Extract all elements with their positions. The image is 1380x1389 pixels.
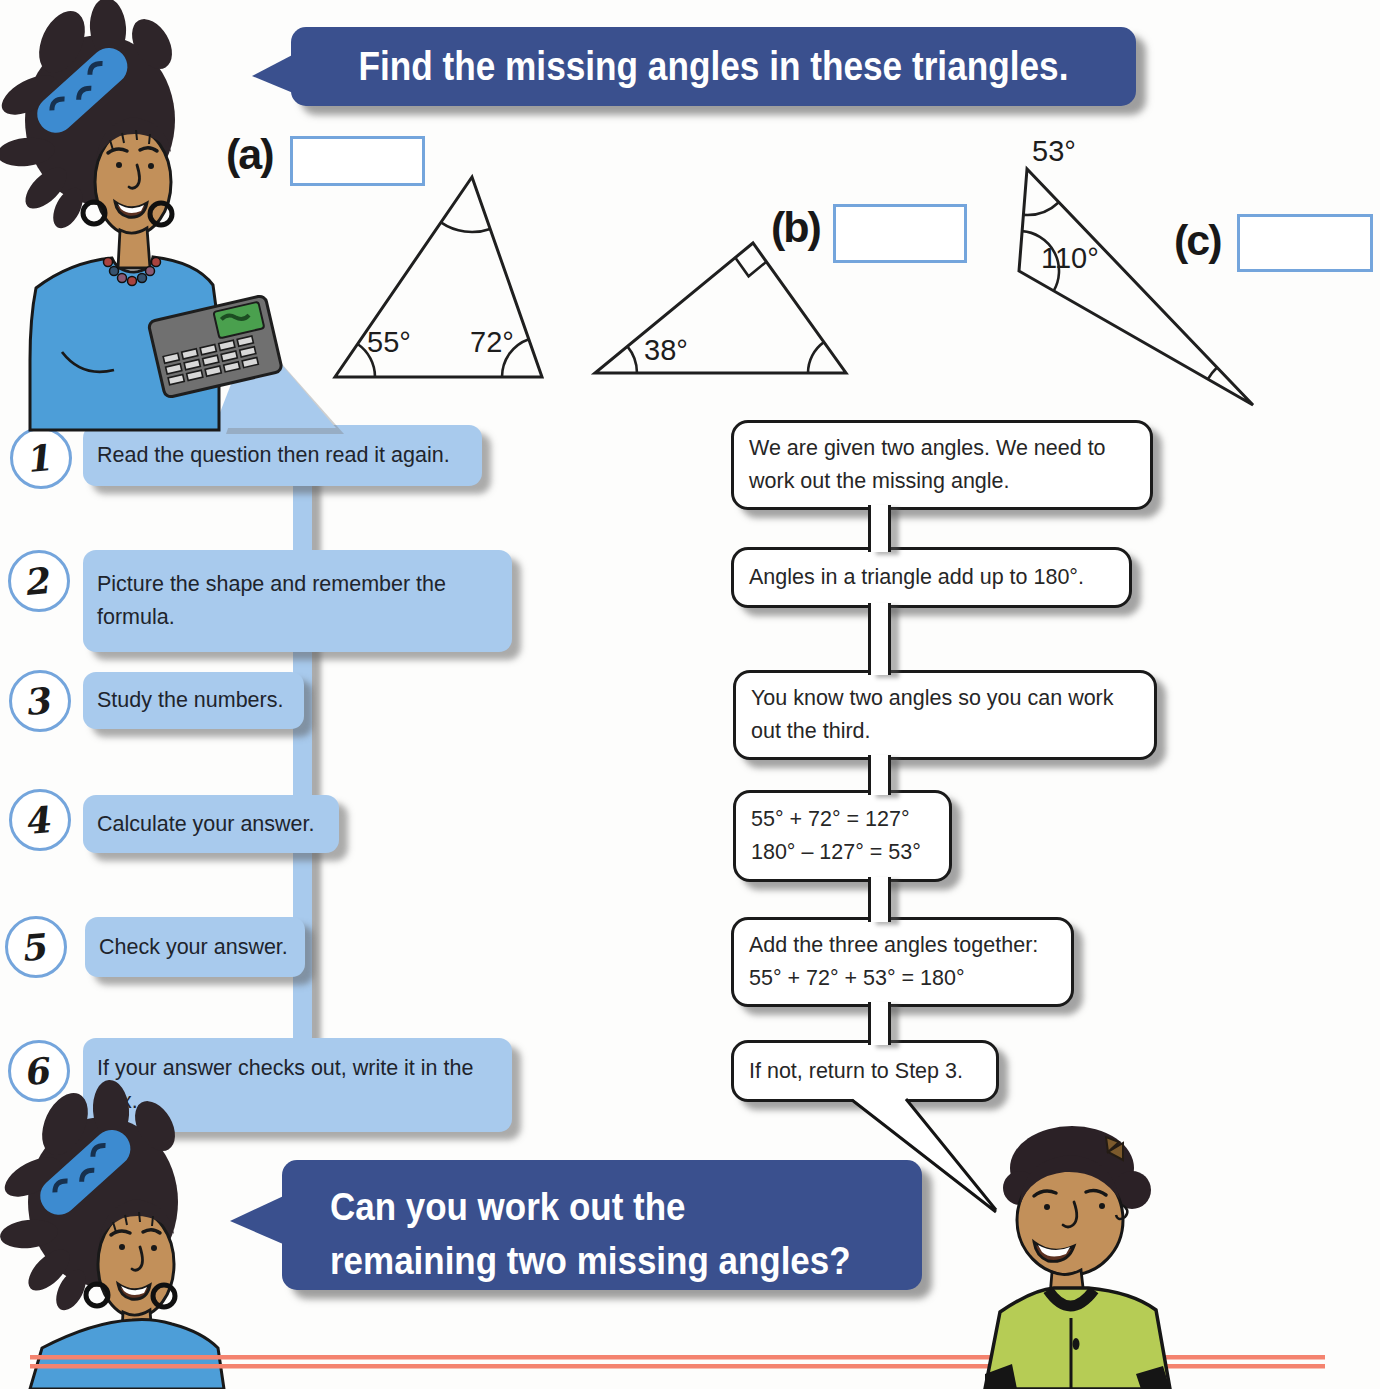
step-number-6: 6 — [8, 1040, 70, 1102]
step-number-5: 5 — [5, 916, 67, 978]
challenge-banner: Can you work out the remaining two missi… — [282, 1160, 922, 1290]
hint-bubble-3: You know two angles so you can work out … — [733, 670, 1157, 760]
student-eye-left — [1044, 1204, 1050, 1210]
student-face — [1017, 1165, 1123, 1275]
teacher-bottom-top — [30, 1320, 224, 1389]
student-eyebrows — [1034, 1191, 1106, 1196]
student-cuff-left — [985, 1364, 1017, 1389]
student-neck — [1050, 1270, 1084, 1296]
triangle-c — [1019, 169, 1253, 405]
teacher-top-folds — [62, 345, 174, 377]
challenge-banner-tail — [230, 1193, 290, 1247]
angle-label-c-110: 110° — [1041, 242, 1099, 275]
hint-connector-5 — [868, 1002, 891, 1045]
problem-label-c: (c) — [1174, 216, 1221, 265]
hint-bubble-4: 55° + 72° = 127° 180° – 127° = 53° — [733, 790, 952, 882]
step-number-4: 4 — [9, 789, 71, 851]
hint-bubble-5: Add the three angles together: 55° + 72°… — [731, 917, 1074, 1007]
hint-connector-3 — [868, 755, 891, 795]
student-shirt — [985, 1288, 1170, 1389]
worksheet-page: Find the missing angles in these triangl… — [0, 0, 1380, 1389]
footer-rule — [30, 1355, 1325, 1369]
hint-connector-4 — [868, 877, 891, 922]
right-angle-marker — [735, 258, 766, 277]
hint-bubble-6: If not, return to Step 3. — [731, 1040, 999, 1102]
teacher-top — [30, 257, 219, 430]
step-box-4: Calculate your answer. — [83, 795, 339, 853]
step-box-1: Read the question then read it again. — [83, 425, 482, 486]
student-teeth — [1038, 1245, 1070, 1257]
angle-label-a-55: 55° — [367, 326, 411, 359]
angle-label-a-72: 72° — [470, 326, 514, 359]
challenge-text-line2: remaining two missing angles? — [330, 1234, 875, 1288]
triangle-b — [595, 243, 846, 373]
step-box-6: If your answer checks out, write it in t… — [83, 1038, 512, 1132]
student-collar — [1048, 1290, 1094, 1306]
answer-box-c[interactable] — [1237, 214, 1373, 272]
student-button — [1073, 1338, 1080, 1350]
step-number-3: 3 — [9, 670, 71, 732]
step-box-3: Study the numbers. — [83, 672, 304, 729]
challenge-text-line1: Can you work out the — [330, 1180, 875, 1234]
student-sideburn — [1116, 1205, 1127, 1219]
student-hairline — [1020, 1155, 1120, 1205]
step-box-2: Picture the shape and remember the formu… — [83, 550, 512, 652]
student-nose — [1063, 1202, 1077, 1227]
step-number-1: 1 — [10, 427, 72, 489]
answer-box-a[interactable] — [290, 136, 425, 186]
step-number-2: 2 — [8, 550, 70, 612]
student-bow — [1106, 1137, 1123, 1160]
problem-label-a: (a) — [226, 130, 273, 179]
title-banner: Find the missing angles in these triangl… — [291, 27, 1136, 106]
hint-bubble-1: We are given two angles. We need to work… — [731, 420, 1153, 510]
teacher-illustration — [0, 0, 282, 430]
angle-label-b-38: 38° — [644, 334, 688, 367]
hint-connector-2 — [868, 603, 891, 675]
angle-label-c-53: 53° — [1032, 135, 1076, 168]
step-box-5: Check your answer. — [85, 917, 305, 977]
title-text: Find the missing angles in these triangl… — [358, 44, 1068, 89]
student-hair — [1003, 1126, 1151, 1210]
problem-label-b: (b) — [771, 203, 820, 252]
steps-speech-tail — [214, 330, 344, 434]
student-eye-right — [1099, 1203, 1105, 1209]
answer-box-b[interactable] — [833, 204, 967, 263]
student-illustration — [985, 1126, 1170, 1389]
student-cuff-right — [1136, 1366, 1170, 1389]
calculator — [148, 295, 282, 398]
student-mouth — [1034, 1242, 1074, 1261]
hint-bubble-2: Angles in a triangle add up to 180°. — [731, 547, 1132, 608]
hint-connector-1 — [868, 505, 891, 552]
